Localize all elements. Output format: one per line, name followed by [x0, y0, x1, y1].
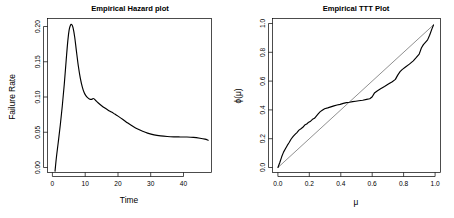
- hazard-plot-box: [48, 19, 212, 173]
- ttt-xtick-1: 0.2: [305, 180, 314, 187]
- hazard-ytick-1: 0.05: [34, 126, 41, 139]
- ttt-ytick-1: 0.2: [259, 134, 266, 143]
- ttt-xaxis-label: μ: [354, 197, 359, 207]
- hazard-ytick-4: 0.20: [34, 20, 41, 33]
- ttt-plot-svg: Empirical TTT Plot 0.0 0.2 0.4 0.6 0.8 1…: [227, 0, 454, 218]
- hazard-xtick-1: 10: [82, 180, 90, 187]
- ttt-ytick-5: 1.0: [259, 19, 266, 28]
- ttt-xtick-3: 0.6: [368, 180, 377, 187]
- ttt-xtick-5: 1.0: [431, 180, 440, 187]
- ttt-ytick-3: 0.6: [259, 76, 266, 85]
- ttt-plot-title: Empirical TTT Plot: [323, 4, 390, 13]
- hazard-x-axis: 0 10 20 30 40: [51, 173, 188, 188]
- hazard-plot-title: Empirical Hazard plot: [91, 4, 169, 13]
- hazard-ytick-0: 0.00: [34, 161, 41, 174]
- ttt-y-axis: 0.0 0.2 0.4 0.6 0.8 1.0: [259, 19, 273, 172]
- hazard-xtick-2: 20: [114, 180, 122, 187]
- hazard-ytick-2: 0.10: [34, 90, 41, 103]
- ttt-reference-diagonal: [278, 25, 434, 168]
- panel-empirical-ttt-plot: Empirical TTT Plot 0.0 0.2 0.4 0.6 0.8 1…: [227, 0, 454, 218]
- hazard-xtick-3: 30: [147, 180, 155, 187]
- ttt-ytick-0: 0.0: [259, 163, 266, 172]
- ttt-ytick-4: 0.8: [259, 47, 266, 56]
- ttt-xtick-0: 0.0: [273, 180, 282, 187]
- hazard-xtick-0: 0: [51, 180, 55, 187]
- ttt-yaxis-label: ϕ(μ): [233, 88, 243, 103]
- hazard-xtick-4: 40: [180, 180, 188, 187]
- hazard-y-axis: 0.00 0.05 0.10 0.15 0.20: [34, 20, 48, 174]
- ttt-x-axis: 0.0 0.2 0.4 0.6 0.8 1.0: [273, 173, 440, 188]
- hazard-ytick-3: 0.15: [34, 55, 41, 68]
- hazard-plot-svg: Empirical Hazard plot 0.00 0.05 0.10 0.1…: [0, 0, 227, 218]
- figure-container: Empirical Hazard plot 0.00 0.05 0.10 0.1…: [0, 0, 454, 218]
- panel-empirical-hazard-plot: Empirical Hazard plot 0.00 0.05 0.10 0.1…: [0, 0, 227, 218]
- ttt-xtick-2: 0.4: [336, 180, 345, 187]
- hazard-yaxis-label: Failure Rate: [7, 74, 17, 120]
- ttt-xtick-4: 0.8: [399, 180, 408, 187]
- hazard-data-curve: [55, 24, 208, 171]
- ttt-ytick-2: 0.4: [259, 105, 266, 114]
- hazard-xaxis-label: Time: [120, 195, 139, 205]
